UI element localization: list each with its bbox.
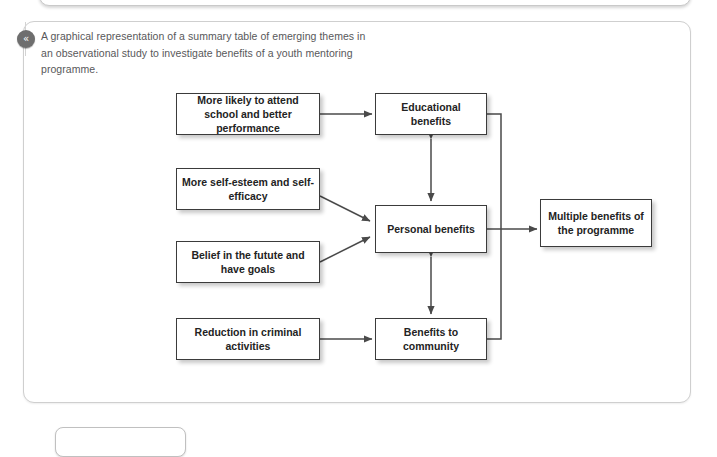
flow-node-belief[interactable]: Belief in the futute and have goals — [176, 241, 320, 283]
bottom-panel-peek — [55, 427, 186, 457]
figure-caption: A graphical representation of a summary … — [41, 28, 371, 78]
flow-node-reduction[interactable]: Reduction in criminal activities — [176, 318, 320, 360]
flow-node-benefits-to-community[interactable]: Benefits to community — [375, 318, 487, 360]
flow-node-multiple-benefits[interactable]: Multiple benefits of the programme — [540, 199, 652, 247]
top-panel-peek — [39, 0, 691, 6]
flow-node-personal-benefits[interactable]: Personal benefits — [375, 205, 487, 253]
flow-node-school[interactable]: More likely to attend school and better … — [176, 93, 320, 135]
flow-node-esteem[interactable]: More self-esteem and self-efficacy — [176, 168, 320, 210]
double-chevron-left-icon[interactable]: « — [17, 30, 35, 48]
flow-node-educational-benefits[interactable]: Educational benefits — [375, 93, 487, 135]
